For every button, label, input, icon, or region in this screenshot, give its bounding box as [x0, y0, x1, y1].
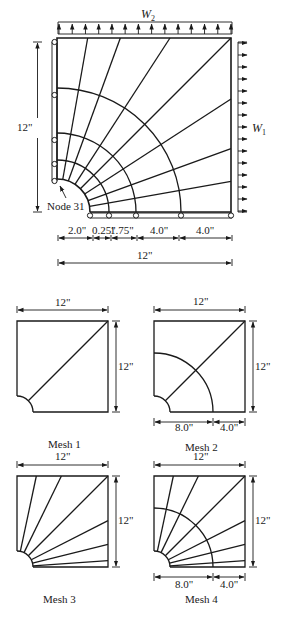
mesh-3-caption: Mesh 3 — [43, 593, 76, 605]
left-dimension: 12" — [17, 42, 42, 212]
dim-1-75: 1.75" — [110, 224, 134, 236]
roller-node — [133, 213, 138, 218]
mesh-4-caption: Mesh 4 — [185, 593, 218, 605]
mesh-2: 12" 12" 8.0" 4.0" Mesh 2 — [154, 295, 271, 453]
overall-width-label: 12" — [137, 249, 153, 261]
dim-2-0: 2.0" — [68, 224, 86, 236]
mesh-4-dim-4-0: 4.0" — [220, 578, 238, 590]
bottom-dimension-chain: 2.0" 0.25" 1.75" 4.0" 4.0" 12" — [58, 224, 232, 266]
roller-node — [178, 213, 183, 218]
height-dimension-label: 12" — [17, 121, 33, 133]
mesh-4-top-dim: 12" — [193, 450, 209, 462]
mesh-2-side-dim: 12" — [255, 360, 271, 372]
mesh-1-top-dim: 12" — [55, 296, 71, 308]
roller-node — [52, 178, 57, 183]
right-load-w1: W 1 — [238, 42, 266, 212]
main-figure: W 2 W 1 12" — [17, 7, 266, 266]
mesh-2-dim-4-0: 4.0" — [220, 421, 238, 433]
roller-node — [106, 213, 111, 218]
w1-subscript: 1 — [262, 128, 266, 137]
mesh-1: 12" 12" Mesh 1 — [17, 296, 134, 450]
mesh-2-dim-8-0: 8.0" — [175, 421, 193, 433]
dim-4-0-b: 4.0" — [196, 224, 214, 236]
roller-node — [52, 39, 57, 44]
mesh-3-side-dim: 12" — [118, 514, 134, 526]
mesh-4: 12" 12" 8.0" 4.0" Mesh 4 — [154, 450, 271, 605]
mesh-2-top-dim: 12" — [193, 295, 209, 307]
mesh-1-side-dim: 12" — [118, 360, 134, 372]
roller-node — [228, 213, 233, 218]
mesh-3: 12" 12" Mesh 3 — [17, 450, 134, 605]
top-load-w2: W 2 — [58, 7, 232, 34]
bottom-roller-supports — [87, 213, 233, 218]
roller-node — [87, 213, 92, 218]
node-31-label: Node 31 — [47, 200, 85, 212]
roller-node — [52, 137, 57, 142]
roller-node — [52, 161, 57, 166]
node-31-callout: Node 31 — [47, 186, 85, 212]
dim-4-0-a: 4.0" — [150, 224, 168, 236]
mesh-1-caption: Mesh 1 — [48, 438, 81, 450]
mesh-4-side-dim: 12" — [255, 514, 271, 526]
mesh-3-top-dim: 12" — [55, 450, 71, 462]
roller-node — [52, 92, 57, 97]
mesh-4-dim-8-0: 8.0" — [175, 578, 193, 590]
main-mesh — [57, 38, 231, 212]
finite-element-mesh-diagram: W 2 W 1 12" — [0, 0, 283, 617]
